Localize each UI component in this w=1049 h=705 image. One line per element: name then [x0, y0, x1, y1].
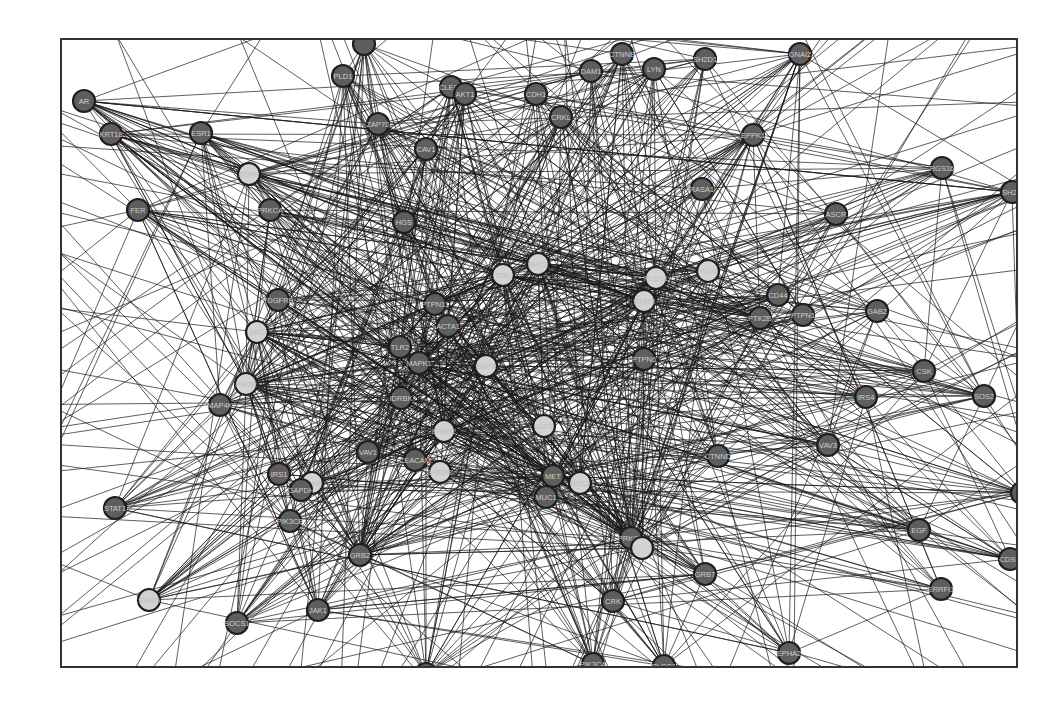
edge: [111, 610, 318, 668]
node-label: CRKL: [551, 113, 571, 122]
node-top1[interactable]: [353, 40, 375, 55]
edge: [789, 589, 941, 653]
node-grb7[interactable]: GRB7: [694, 563, 716, 585]
node-muc1[interactable]: MUC1: [535, 486, 557, 508]
node-label: EGFR: [239, 170, 260, 179]
node-label: EPHA2: [777, 649, 802, 658]
node-vav1[interactable]: VAV1: [357, 441, 379, 463]
node-zap70[interactable]: ZAP70: [367, 113, 390, 135]
node-label: SOS2: [974, 392, 994, 401]
node-label: PLCG: [698, 267, 719, 276]
node-prkca[interactable]: PRKCA: [257, 199, 283, 221]
node-mapk1[interactable]: MAPK1: [406, 352, 431, 374]
node-crkl[interactable]: CRKL: [550, 106, 572, 128]
edge: [62, 133, 201, 508]
node-plcg1b[interactable]: PLCG1: [652, 655, 677, 668]
node-label: SH2D1: [693, 55, 717, 64]
node-label: ERBB2: [432, 427, 457, 436]
edge: [362, 664, 593, 668]
node-egf[interactable]: EGF: [908, 519, 930, 541]
node-circle[interactable]: [353, 40, 375, 55]
node-sos2[interactable]: SOS2: [973, 385, 995, 407]
node-dam1[interactable]: DAM1: [580, 60, 602, 82]
node-erbb3[interactable]: ERBB3: [428, 461, 453, 483]
node-ptpn6[interactable]: PTPN6: [632, 348, 656, 370]
node-grb2_l[interactable]: PLCG1: [644, 267, 669, 289]
network-graph: ARKRT18ESR1FERPLD1CLEC1AKT1ZAP70CAV1CDH1…: [62, 40, 1018, 668]
node-ascr[interactable]: ASCR: [825, 203, 847, 225]
node-src[interactable]: SRC: [246, 321, 268, 343]
node-label: PIK3CB: [277, 517, 304, 526]
node-cbl[interactable]: CBL: [492, 264, 514, 286]
node-eppk1[interactable]: EPPK1: [741, 124, 765, 146]
node-gnai2[interactable]: GNAI2: [789, 43, 812, 65]
edge: [364, 44, 451, 87]
node-socs1[interactable]: SOCS1: [224, 612, 249, 634]
node-stat3_l[interactable]: STAT3: [633, 290, 655, 312]
node-prkcd_l[interactable]: [631, 537, 653, 559]
node-lyn[interactable]: LYN: [643, 58, 665, 80]
node-cdh1[interactable]: CDH1: [525, 83, 547, 105]
node-csk[interactable]: CSK: [913, 360, 935, 382]
node-irs1[interactable]: IRS1: [268, 463, 290, 485]
node-label: SH2D: [1002, 188, 1018, 197]
node-nck1[interactable]: NCK1: [569, 472, 591, 494]
node-label: SOCS1: [224, 619, 249, 628]
node-krt18[interactable]: KRT18: [99, 123, 122, 145]
node-jak1[interactable]: JAK1: [307, 599, 329, 621]
node-label: STAT5: [138, 596, 160, 605]
node-erbb2[interactable]: ERBB2: [432, 420, 457, 442]
node-label: MAPK1: [406, 359, 431, 368]
node-label: SHC1: [528, 260, 548, 269]
node-akt1[interactable]: AKT1: [454, 83, 476, 105]
node-label: ZAP70: [367, 120, 390, 129]
node-label: CAV1: [416, 145, 435, 154]
node-cd44[interactable]: CD44: [767, 284, 789, 306]
node-label: GRB2: [350, 551, 370, 560]
node-shc1[interactable]: SHC1: [527, 253, 549, 275]
edge: [1012, 192, 1018, 493]
node-irs4[interactable]: IRS4: [855, 386, 877, 408]
node-grb2[interactable]: GRB2: [349, 544, 371, 566]
node-label: GRB7: [695, 570, 715, 579]
node-label: JAK1: [309, 606, 327, 615]
node-fer[interactable]: FER: [127, 199, 149, 221]
node-egfr[interactable]: EGFR: [475, 355, 497, 377]
node-cdsn[interactable]: CDSN: [999, 548, 1018, 570]
node-acta1[interactable]: ACTA1: [436, 315, 460, 337]
node-met[interactable]: MET: [542, 465, 564, 487]
node-plcg[interactable]: PLCG: [697, 260, 719, 282]
edge: [664, 574, 705, 666]
node-label: EGFR: [476, 362, 497, 371]
edge: [415, 460, 1010, 559]
node-stat1[interactable]: STAT1: [104, 497, 126, 519]
node-jak2_l[interactable]: JAK2: [533, 415, 555, 437]
node-esr1[interactable]: ESR1: [190, 122, 212, 144]
node-gab2[interactable]: GAB2: [866, 300, 888, 322]
node-ptk2b[interactable]: PTK2B: [748, 307, 772, 329]
node-pld1[interactable]: PLD1: [332, 65, 354, 87]
node-sh2d1[interactable]: SH2D1: [693, 48, 717, 70]
node-rgs16[interactable]: RGS16: [930, 157, 955, 179]
node-idrbk[interactable]: IDRBK: [390, 387, 413, 409]
node-circle[interactable]: [631, 537, 653, 559]
node-egfr_l[interactable]: EGFR: [238, 163, 260, 185]
node-pik3r1[interactable]: PIK3R: [235, 373, 257, 395]
node-stat5[interactable]: STAT5: [138, 589, 160, 611]
node-hgs[interactable]: HGS: [393, 211, 415, 233]
node-tlr2[interactable]: TLR2: [389, 336, 411, 358]
node-vav3[interactable]: VAV3: [817, 434, 839, 456]
node-sh2d2[interactable]: SH2D: [1001, 181, 1018, 203]
node-label: RASA1: [690, 185, 715, 194]
node-map4k1[interactable]: MAP4K: [207, 394, 232, 416]
node-label: CBL: [496, 271, 511, 280]
node-crk[interactable]: CRK: [602, 590, 624, 612]
node-label: VAV1: [359, 448, 377, 457]
node-ptpn1[interactable]: PTPN1: [791, 304, 815, 326]
node-label: FER: [131, 206, 147, 215]
node-epha2[interactable]: EPHA2: [777, 642, 802, 664]
node-ctnnb1[interactable]: CTNNB: [609, 43, 635, 65]
node-ar[interactable]: AR: [73, 90, 95, 112]
node-rasa1[interactable]: RASA1: [690, 178, 715, 200]
node-cav1[interactable]: CAV1: [415, 138, 437, 160]
